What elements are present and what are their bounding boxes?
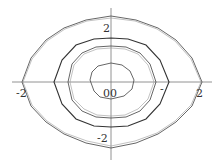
- stray-mark: -: [160, 83, 164, 96]
- origin-label: 00: [103, 87, 117, 100]
- x-tick-pos2: 2: [196, 87, 203, 100]
- y-tick-pos2: 2: [103, 22, 110, 35]
- contour-plot: -2 2 2 -2 00 -: [0, 0, 218, 164]
- y-tick-neg2: -2: [97, 132, 108, 145]
- x-tick-neg2: -2: [16, 87, 27, 100]
- contour-second: [54, 38, 169, 127]
